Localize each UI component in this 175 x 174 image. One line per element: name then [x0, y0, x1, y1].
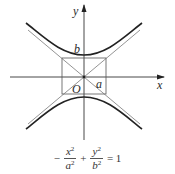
fraction-y: y2 b2	[90, 146, 102, 171]
exp: 2	[71, 145, 75, 153]
exp: 2	[97, 145, 101, 153]
origin-point	[83, 76, 86, 79]
y-axis-label: y	[72, 4, 79, 18]
minus-sign: −	[54, 152, 60, 164]
exp: 2	[71, 159, 75, 167]
plus-sign: +	[80, 152, 86, 164]
equals-one: = 1	[107, 152, 121, 164]
origin-label: O	[72, 82, 81, 96]
x-axis-label: x	[156, 78, 163, 92]
a-label: a	[96, 77, 102, 91]
exp: 2	[98, 159, 102, 167]
b-label: b	[74, 42, 80, 56]
fraction-x: x2 a2	[64, 146, 76, 171]
hyperbola-equation: − x2 a2 + y2 b2 = 1	[40, 143, 135, 173]
